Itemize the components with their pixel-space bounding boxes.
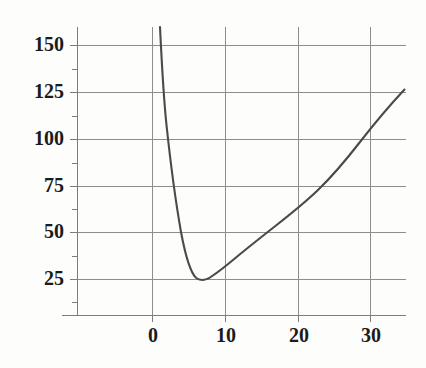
y-tick-label-25: 25 [10, 268, 64, 288]
x-tick-label-30: 30 [351, 325, 391, 345]
x-tick-label-20: 20 [279, 325, 319, 345]
y-tick-label-125: 125 [10, 81, 64, 101]
y-tick-label-150: 150 [10, 34, 64, 54]
horizontal-gridlines [77, 46, 406, 280]
cost-curve [160, 27, 405, 280]
x-tick-label-10: 10 [206, 325, 246, 345]
y-tick-label-50: 50 [10, 221, 64, 241]
y-tick-label-75: 75 [10, 175, 64, 195]
y-axis-major-ticks [70, 46, 77, 280]
y-tick-label-100: 100 [10, 128, 64, 148]
vertical-gridlines [153, 27, 371, 316]
chart-figure: 150 125 100 75 50 25 0 10 20 30 [0, 0, 426, 368]
x-tick-label-0: 0 [133, 325, 173, 345]
